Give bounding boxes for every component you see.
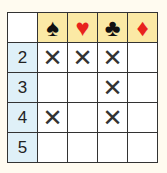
grid-cell[interactable]: [38, 133, 68, 163]
x-mark-icon: ✕: [102, 104, 122, 132]
header-row: ♠ ♥ ♣ ♦: [8, 13, 158, 43]
grid-cell[interactable]: ✕: [98, 73, 128, 103]
diamond-icon: ♦: [136, 14, 148, 41]
grid-cell[interactable]: ✕: [98, 43, 128, 73]
corner-cell: [8, 13, 38, 43]
grid-cell[interactable]: ✕: [38, 103, 68, 133]
row-label: 3: [8, 73, 38, 103]
grid-cell[interactable]: [128, 133, 158, 163]
row-label: 5: [8, 133, 38, 163]
grid-cell[interactable]: [68, 73, 98, 103]
grid-cell[interactable]: [68, 133, 98, 163]
grid-cell[interactable]: [128, 73, 158, 103]
grid-cell[interactable]: ✕: [68, 43, 98, 73]
grid-cell[interactable]: [128, 103, 158, 133]
grid-cell[interactable]: ✕: [38, 43, 68, 73]
x-mark-icon: ✕: [42, 104, 62, 132]
x-mark-icon: ✕: [102, 74, 122, 102]
grid-row: 5: [8, 133, 158, 163]
header-diamond: ♦: [128, 13, 158, 43]
logic-grid: ♠ ♥ ♣ ♦ 2 ✕ ✕ ✕ 3 ✕ 4 ✕ ✕ 5: [7, 12, 158, 163]
x-mark-icon: ✕: [102, 44, 122, 72]
grid-cell[interactable]: [38, 73, 68, 103]
grid-cell[interactable]: ✕: [98, 103, 128, 133]
grid-cell[interactable]: [128, 43, 158, 73]
grid-cell[interactable]: [68, 103, 98, 133]
club-icon: ♣: [105, 14, 121, 41]
header-club: ♣: [98, 13, 128, 43]
header-spade: ♠: [38, 13, 68, 43]
x-mark-icon: ✕: [42, 44, 62, 72]
grid-cell[interactable]: [98, 133, 128, 163]
grid-row: 4 ✕ ✕: [8, 103, 158, 133]
spade-icon: ♠: [46, 14, 59, 41]
row-label: 4: [8, 103, 38, 133]
x-mark-icon: ✕: [72, 44, 92, 72]
header-heart: ♥: [68, 13, 98, 43]
grid-row: 2 ✕ ✕ ✕: [8, 43, 158, 73]
grid-row: 3 ✕: [8, 73, 158, 103]
row-label: 2: [8, 43, 38, 73]
heart-icon: ♥: [75, 14, 89, 41]
